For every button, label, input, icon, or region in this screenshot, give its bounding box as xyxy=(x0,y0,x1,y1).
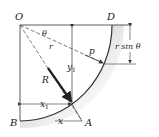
y1-label: y1 xyxy=(66,62,76,73)
theta-label: θ xyxy=(42,29,47,38)
quarter-circle-pressure-diagram: O D B A θ r p R y1 x1 x r sin θ xyxy=(0,0,159,137)
r-label: r xyxy=(49,42,54,51)
x1-label: x1 xyxy=(40,99,49,110)
pressure-arrow-p xyxy=(85,55,103,63)
point-D-label: D xyxy=(106,11,115,22)
point-B-label: B xyxy=(9,117,17,128)
R-label: R xyxy=(41,75,49,85)
r-sin-theta-label: r sin θ xyxy=(115,42,141,51)
point-O-label: O xyxy=(15,11,23,22)
diagram-svg: O D B A θ r p R y1 x1 x r sin θ xyxy=(0,0,159,137)
x-label: x xyxy=(58,116,63,126)
point-A-label: A xyxy=(84,117,92,128)
resultant-arrow-R xyxy=(48,68,71,101)
p-label: p xyxy=(89,46,95,56)
